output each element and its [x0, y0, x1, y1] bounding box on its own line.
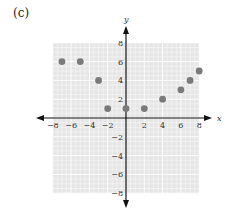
data-point	[123, 105, 130, 112]
x-tick-label: 4	[160, 121, 165, 130]
data-point	[141, 105, 148, 112]
data-point	[59, 58, 66, 65]
y-tick-label: 2	[118, 95, 123, 104]
data-point	[178, 86, 185, 93]
y-tick-label: −8	[111, 189, 123, 198]
x-tick-label: −6	[65, 121, 77, 130]
y-axis-down-arrow-icon	[123, 200, 129, 208]
x-tick-label: −2	[102, 121, 114, 130]
x-axis-right-arrow-icon	[204, 115, 212, 121]
data-point	[187, 77, 194, 84]
x-tick-label: −4	[84, 121, 96, 130]
y-tick-label: −4	[111, 152, 123, 161]
y-tick-label: 4	[118, 76, 123, 85]
data-point	[95, 77, 102, 84]
x-axis-label: x	[217, 114, 222, 123]
data-point	[196, 68, 203, 75]
y-axis-label: y	[123, 15, 129, 24]
data-point	[104, 105, 111, 112]
y-tick-label: −2	[111, 133, 123, 142]
x-tick-label: −8	[47, 121, 59, 130]
x-tick-label: 2	[142, 121, 147, 130]
y-tick-label: 8	[118, 39, 123, 48]
y-axis-up-arrow-icon	[123, 26, 129, 34]
scatter-chart: xy −8−6−4−224688642−2−4−6−8	[0, 0, 232, 220]
y-tick-label: −6	[111, 170, 123, 179]
data-point	[77, 58, 84, 65]
x-tick-label: 8	[197, 121, 202, 130]
data-point	[159, 96, 166, 103]
y-tick-label: 6	[118, 58, 123, 67]
x-tick-label: 6	[178, 121, 183, 130]
x-axis-left-arrow-icon	[36, 115, 44, 121]
